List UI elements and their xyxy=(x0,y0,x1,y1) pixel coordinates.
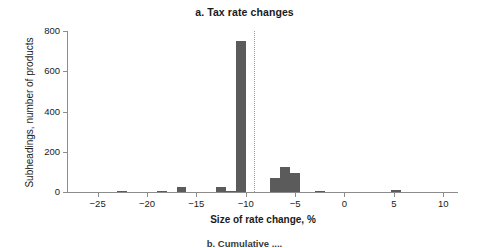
x-axis-line xyxy=(67,192,458,193)
x-tick-mark xyxy=(394,193,395,197)
histogram-bar xyxy=(226,191,236,192)
x-tick-mark xyxy=(295,193,296,197)
x-tick-label: −10 xyxy=(226,199,266,209)
x-tick-mark xyxy=(344,193,345,197)
y-tick-mark xyxy=(63,152,67,153)
y-tick-label: 400 xyxy=(20,107,60,117)
histogram-bar xyxy=(157,191,167,192)
next-panel-caption: b. Cumulative .... xyxy=(0,238,489,248)
x-tick-mark xyxy=(443,193,444,197)
x-tick-label: 0 xyxy=(324,199,364,209)
reference-line xyxy=(254,31,255,192)
histogram-bar xyxy=(177,187,187,192)
chart-figure: a. Tax rate changes Subheadings, number … xyxy=(0,0,489,248)
histogram-bar xyxy=(290,173,300,192)
x-tick-label: −15 xyxy=(176,199,216,209)
x-axis-title: Size of rate change, % xyxy=(68,214,458,225)
histogram-bar xyxy=(236,41,246,192)
y-tick-label: 800 xyxy=(20,26,60,36)
y-tick-label: 600 xyxy=(20,66,60,76)
y-tick-mark xyxy=(63,192,67,193)
x-tick-label: 10 xyxy=(423,199,463,209)
plot-area xyxy=(68,31,458,192)
y-tick-mark xyxy=(63,31,67,32)
histogram-bar xyxy=(315,191,325,192)
x-tick-label: −5 xyxy=(275,199,315,209)
x-tick-label: −20 xyxy=(127,199,167,209)
y-tick-label: 200 xyxy=(20,147,60,157)
y-tick-label: 0 xyxy=(20,187,60,197)
histogram-bar xyxy=(117,191,127,192)
histogram-bar xyxy=(280,167,290,192)
x-tick-mark xyxy=(196,193,197,197)
y-tick-mark xyxy=(63,71,67,72)
histogram-bar xyxy=(270,178,280,192)
x-tick-label: 5 xyxy=(374,199,414,209)
histogram-bar xyxy=(216,187,226,192)
x-tick-mark xyxy=(98,193,99,197)
x-tick-mark xyxy=(147,193,148,197)
y-tick-mark xyxy=(63,112,67,113)
x-tick-label: −25 xyxy=(78,199,118,209)
histogram-bar xyxy=(391,190,401,192)
chart-title: a. Tax rate changes xyxy=(0,6,489,18)
x-tick-mark xyxy=(246,193,247,197)
